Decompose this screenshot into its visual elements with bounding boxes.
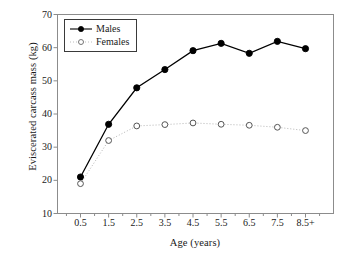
legend-item-females: Females — [69, 36, 129, 49]
legend-symbol-open-circle-icon — [69, 36, 93, 48]
data-series-group — [77, 38, 308, 186]
legend-label-males: Males — [96, 23, 120, 36]
legend-item-males: Males — [69, 23, 129, 36]
plot-area — [0, 0, 347, 261]
chart-figure: Eviscerated carcass mass (kg) Age (years… — [0, 0, 347, 261]
legend: Males Females — [64, 19, 137, 52]
legend-label-females: Females — [96, 36, 129, 49]
legend-symbol-filled-circle-icon — [69, 23, 93, 35]
